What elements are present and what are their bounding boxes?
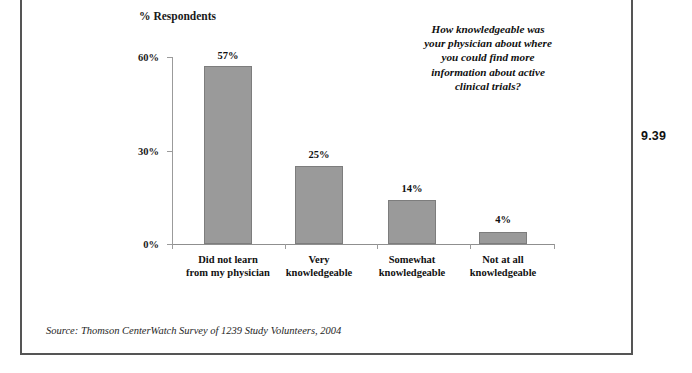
x-axis-line [172,244,555,245]
x-tick-4 [554,244,555,249]
question-line-2: your physician about where [400,36,576,50]
x-tick-0 [172,244,173,249]
bar-somewhat-knowledgeable[interactable] [388,200,436,244]
bar-very-knowledgeable[interactable] [295,166,343,244]
source-note: Source: Thomson CenterWatch Survey of 12… [46,325,341,336]
x-tick-1 [285,244,286,249]
y-axis-title: % Respondents [139,10,216,22]
slide-frame: % Respondents How knowledgeable was your… [20,0,633,355]
y-tick-60: 60% [167,57,172,58]
y-tick-label-30: 30% [138,145,159,156]
bar-value-3: 4% [471,214,535,225]
x-tick-2 [377,244,378,249]
y-tick-30: 30% [167,151,172,152]
category-label-3-line-1: Not at all [444,253,562,266]
y-tick-label-60: 60% [138,52,159,63]
bar-chart-plot-area: 0% 30% 60% 57% 25% 14% 4% Did not learn … [172,57,555,244]
bar-value-0: 57% [196,50,260,61]
x-tick-3 [470,244,471,249]
bar-not-at-all-knowledgeable[interactable] [479,232,527,245]
y-axis-line [172,57,173,244]
bar-value-2: 14% [380,183,444,194]
bar-value-1: 25% [287,149,351,160]
bar-did-not-learn[interactable] [204,66,252,244]
category-label-3: Not at all knowledgeable [444,253,562,279]
question-line-1: How knowledgeable was [400,22,576,36]
category-label-3-line-2: knowledgeable [444,266,562,279]
y-tick-label-0: 0% [143,239,159,250]
page-number: 9.39 [641,129,666,143]
